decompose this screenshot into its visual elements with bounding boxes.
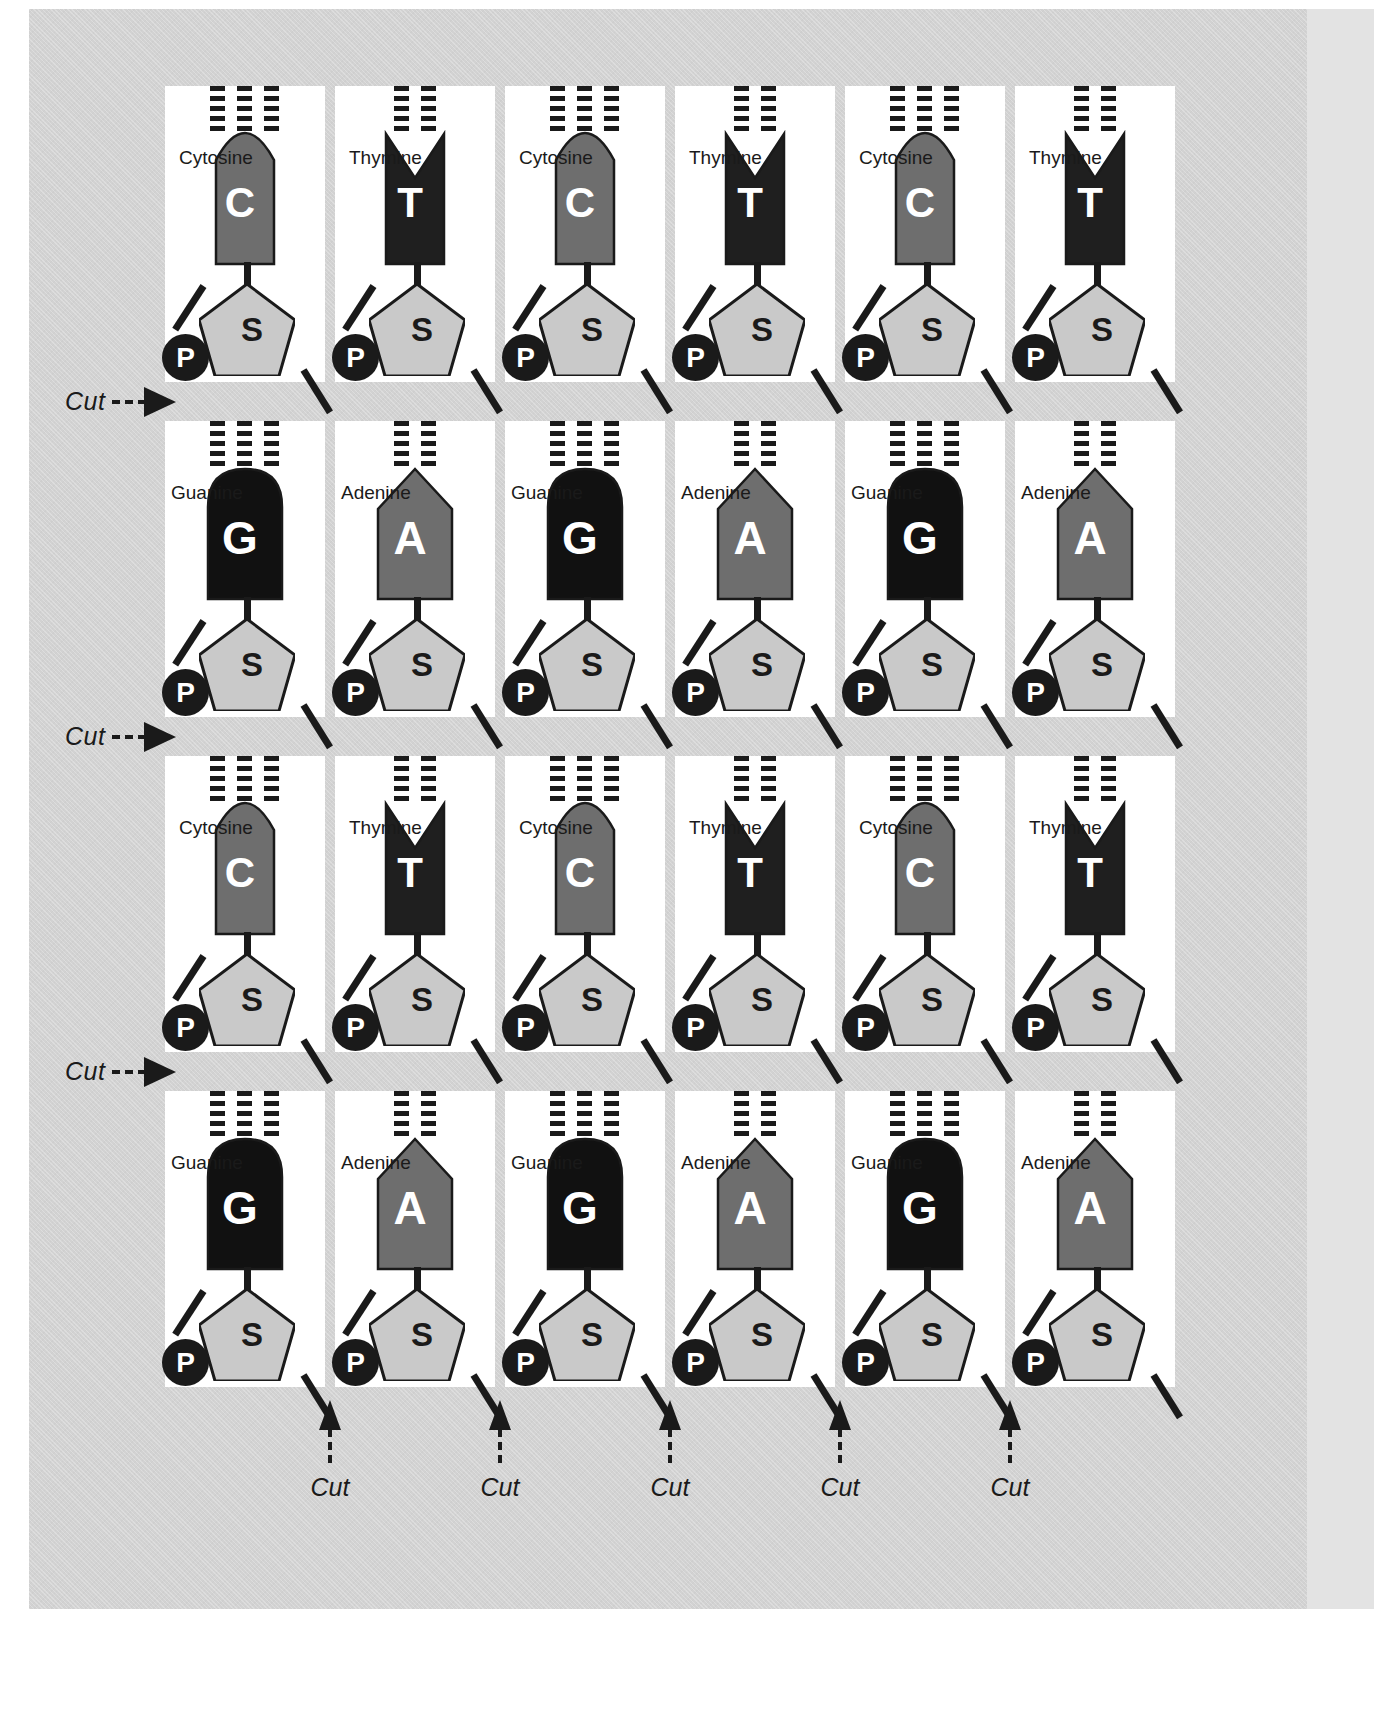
- sugar-outgoing-bond: [981, 703, 1013, 749]
- deoxyribose-sugar: S: [369, 1289, 465, 1381]
- nucleotide-card[interactable]: GGuanine SP: [165, 421, 325, 717]
- hydrogen-bond-bar: [421, 1091, 436, 1141]
- nucleotide-canvas: GGuanine SP: [845, 1091, 1005, 1387]
- nucleotide-guanine: GGuanine SP: [505, 1091, 665, 1387]
- phosphate-group: P: [1012, 334, 1059, 381]
- nucleotide-thymine: TThymine SP: [1015, 756, 1175, 1052]
- base-letter: A: [1024, 1171, 1166, 1245]
- nucleotide-card[interactable]: TThymine SP: [675, 86, 835, 382]
- nucleotide-canvas: AAdenine SP: [1015, 1091, 1175, 1387]
- nucleotide-card[interactable]: AAdenine SP: [675, 421, 835, 717]
- nucleotide-card[interactable]: CCytosine SP: [165, 86, 325, 382]
- hydrogen-bond-bar: [421, 421, 436, 471]
- nucleotide-canvas: GGuanine SP: [165, 421, 325, 717]
- cut-dashed-line: [668, 1429, 672, 1463]
- nucleotide-card[interactable]: CCytosine SP: [845, 756, 1005, 1052]
- cut-arrow-right-icon: [144, 387, 176, 417]
- sugar-letter: S: [711, 1287, 803, 1383]
- hydrogen-bond-bars: [1074, 756, 1116, 802]
- nucleotide-card[interactable]: CCytosine SP: [845, 86, 1005, 382]
- base-name-label: Adenine: [1021, 1152, 1091, 1174]
- base-letter: T: [344, 174, 486, 232]
- cut-label: Cut: [311, 1473, 350, 1502]
- nucleotide-card[interactable]: TThymine SP: [335, 86, 495, 382]
- sugar-letter: S: [1051, 617, 1143, 713]
- hydrogen-bond-bar: [734, 1091, 749, 1141]
- deoxyribose-sugar: S: [879, 954, 975, 1046]
- base-name-label: Thymine: [1029, 147, 1102, 169]
- sugar-letter: S: [1051, 282, 1143, 378]
- nucleotide-card[interactable]: TThymine SP: [1015, 756, 1175, 1052]
- phosphate-group: P: [502, 334, 549, 381]
- nucleotide-cytosine: CCytosine SP: [505, 86, 665, 382]
- cut-arrow-up-icon: [659, 1400, 681, 1430]
- phosphate-group: P: [1012, 1339, 1059, 1386]
- cut-label: Cut: [991, 1473, 1030, 1502]
- nucleotide-card[interactable]: GGuanine SP: [505, 421, 665, 717]
- nucleotide-card[interactable]: CCytosine SP: [505, 756, 665, 1052]
- nucleotide-card[interactable]: GGuanine SP: [845, 1091, 1005, 1387]
- cut-marker-bottom: Cut: [805, 1400, 875, 1502]
- hydrogen-bond-bar: [1101, 86, 1116, 136]
- nucleotide-thymine: TThymine SP: [335, 756, 495, 1052]
- hydrogen-bond-bar: [394, 756, 409, 806]
- base-name-label: Thymine: [689, 147, 762, 169]
- nucleotide-adenine: AAdenine SP: [335, 421, 495, 717]
- base-letter: T: [684, 844, 826, 902]
- nucleotide-canvas: GGuanine SP: [505, 1091, 665, 1387]
- deoxyribose-sugar: S: [539, 954, 635, 1046]
- nucleotide-card[interactable]: AAdenine SP: [335, 421, 495, 717]
- nucleotide-adenine: AAdenine SP: [335, 1091, 495, 1387]
- phosphate-letter: P: [672, 1004, 719, 1051]
- nucleotide-card[interactable]: GGuanine SP: [505, 1091, 665, 1387]
- base-name-label: Cytosine: [179, 147, 253, 169]
- base-name-label: Adenine: [681, 482, 751, 504]
- nucleotide-card[interactable]: AAdenine SP: [675, 1091, 835, 1387]
- hydrogen-bond-bars: [1074, 421, 1116, 467]
- hydrogen-bond-bar: [421, 86, 436, 136]
- sugar-letter: S: [371, 952, 463, 1048]
- nucleotide-card[interactable]: CCytosine SP: [165, 756, 325, 1052]
- nucleotide-card[interactable]: TThymine SP: [335, 756, 495, 1052]
- hydrogen-bond-bars: [734, 1091, 776, 1137]
- hydrogen-bond-bar: [551, 1091, 566, 1137]
- phosphate-letter: P: [842, 1339, 889, 1386]
- sugar-outgoing-bond: [301, 703, 333, 749]
- hydrogen-bond-bar: [265, 86, 280, 132]
- sugar-letter: S: [201, 617, 293, 713]
- phosphate-group: P: [332, 1004, 379, 1051]
- sugar-outgoing-bond: [981, 368, 1013, 414]
- phosphate-group: P: [1012, 669, 1059, 716]
- nucleotide-card[interactable]: GGuanine SP: [845, 421, 1005, 717]
- nucleotide-guanine: GGuanine SP: [165, 1091, 325, 1387]
- hydrogen-bond-bar: [891, 86, 906, 132]
- cut-marker-left: Cut: [65, 1057, 176, 1087]
- deoxyribose-sugar: S: [1049, 1289, 1145, 1381]
- phosphate-group: P: [162, 334, 209, 381]
- sugar-outgoing-bond: [471, 703, 503, 749]
- hydrogen-bond-bars: [891, 421, 960, 467]
- nucleotide-card[interactable]: AAdenine SP: [1015, 421, 1175, 717]
- sugar-letter: S: [711, 617, 803, 713]
- nucleotide-canvas: TThymine SP: [335, 86, 495, 382]
- hydrogen-bond-bar: [734, 86, 749, 136]
- cut-arrow-right-icon: [144, 722, 176, 752]
- hydrogen-bond-bars: [394, 421, 436, 467]
- nucleotide-card[interactable]: AAdenine SP: [335, 1091, 495, 1387]
- hydrogen-bond-bar: [605, 421, 620, 467]
- nucleotide-card[interactable]: CCytosine SP: [505, 86, 665, 382]
- nucleotide-card[interactable]: AAdenine SP: [1015, 1091, 1175, 1387]
- phosphate-group: P: [502, 669, 549, 716]
- hydrogen-bond-bar: [1101, 421, 1116, 471]
- nucleotide-card[interactable]: GGuanine SP: [165, 1091, 325, 1387]
- phosphate-letter: P: [1012, 1339, 1059, 1386]
- base-name-label: Adenine: [681, 1152, 751, 1174]
- nucleotide-card[interactable]: TThymine SP: [1015, 86, 1175, 382]
- sugar-letter: S: [201, 952, 293, 1048]
- sugar-letter: S: [1051, 952, 1143, 1048]
- nucleotide-thymine: TThymine SP: [675, 756, 835, 1052]
- phosphate-letter: P: [162, 334, 209, 381]
- nucleotide-card[interactable]: TThymine SP: [675, 756, 835, 1052]
- sugar-letter: S: [371, 1287, 463, 1383]
- phosphate-group: P: [672, 669, 719, 716]
